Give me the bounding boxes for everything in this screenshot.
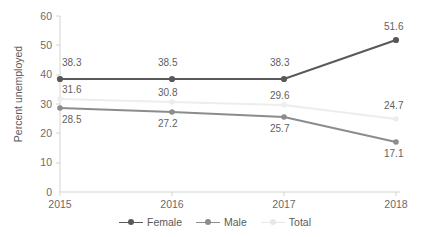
data-label-female-2016: 38.5 (158, 57, 177, 68)
series-line-female (60, 40, 396, 79)
data-point-female-2015 (57, 76, 63, 82)
legend-label-female: Female (147, 216, 182, 228)
data-label-female-2015: 38.3 (62, 57, 81, 68)
data-label-total-2016: 30.8 (158, 87, 177, 98)
data-point-male-2018 (393, 139, 399, 145)
data-label-male-2018: 17.1 (384, 148, 403, 159)
legend-marker-total-icon (261, 218, 285, 227)
legend-marker-male-icon (196, 218, 220, 227)
legend-item-female[interactable]: Female (119, 216, 182, 228)
data-point-male-2017 (281, 114, 287, 120)
legend-marker-female-icon (119, 218, 143, 227)
data-point-male-2016 (169, 109, 175, 115)
data-point-female-2018 (393, 37, 399, 43)
data-label-total-2015: 31.6 (62, 84, 81, 95)
legend-label-male: Male (224, 216, 247, 228)
data-point-female-2017 (281, 76, 287, 82)
data-point-total-2016 (169, 99, 175, 105)
legend-label-total: Total (289, 216, 311, 228)
data-label-male-2015: 28.5 (62, 114, 81, 125)
data-point-total-2017 (281, 102, 287, 108)
data-point-female-2016 (169, 76, 175, 82)
data-point-total-2018 (393, 116, 399, 122)
data-point-male-2015 (57, 105, 63, 111)
data-label-male-2016: 27.2 (158, 118, 177, 129)
data-label-total-2017: 29.6 (270, 90, 289, 101)
data-label-female-2017: 38.3 (270, 57, 289, 68)
data-point-total-2015 (57, 96, 63, 102)
chart-legend: Female Male Total (0, 216, 430, 228)
data-label-total-2018: 24.7 (384, 100, 403, 111)
line-chart: Percent unemployed 60 50 40 30 20 10 0 2… (0, 0, 430, 237)
data-label-male-2017: 25.7 (270, 123, 289, 134)
legend-item-total[interactable]: Total (261, 216, 311, 228)
legend-item-male[interactable]: Male (196, 216, 247, 228)
data-label-female-2018: 51.6 (384, 21, 403, 32)
